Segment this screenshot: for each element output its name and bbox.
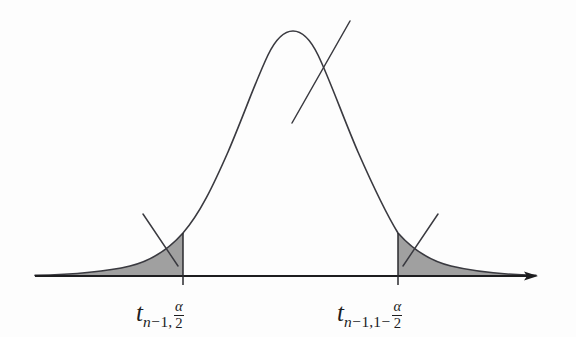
- label-lower-base: t: [136, 299, 143, 326]
- label-upper-subscript: n−1,1−α2: [344, 313, 403, 330]
- label-lower-sub-n: n: [143, 313, 151, 330]
- t-distribution-figure: tn−1,α2 tn−1,1−α2: [0, 0, 576, 337]
- label-upper-sub-minus-2: −: [381, 313, 391, 330]
- label-lower-frac-numerator: α: [174, 299, 184, 316]
- label-lower-frac-denominator: 2: [174, 316, 184, 332]
- label-upper-fraction: α2: [392, 299, 402, 331]
- shaded-region-lower-tail: [35, 31, 536, 276]
- label-lower-sub-comma: ,: [168, 313, 172, 330]
- shaded-region-upper-tail: [35, 31, 536, 276]
- label-upper-base: t: [337, 299, 344, 326]
- label-upper-sub-n: n: [344, 313, 352, 330]
- label-lower-critical-value: tn−1,α2: [136, 294, 184, 326]
- label-lower-subscript: n−1,α2: [143, 313, 184, 330]
- label-upper-frac-numerator: α: [392, 299, 402, 316]
- label-lower-sub-minus: −: [151, 313, 161, 330]
- label-upper-frac-denominator: 2: [392, 316, 402, 332]
- label-lower-fraction: α2: [174, 299, 184, 331]
- label-upper-critical-value: tn−1,1−α2: [337, 294, 402, 326]
- distribution-plot: [0, 0, 576, 337]
- label-upper-sub-unit: 1: [373, 313, 381, 330]
- label-upper-sub-minus: −: [352, 313, 362, 330]
- density-curve: [35, 31, 536, 275]
- leader-line-center-peak: [292, 21, 350, 123]
